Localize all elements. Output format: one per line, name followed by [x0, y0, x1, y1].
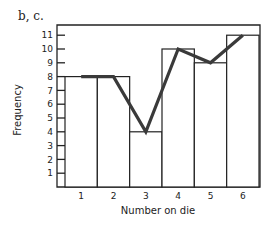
x-tick-label: 6	[240, 191, 246, 201]
x-tick-label: 5	[208, 191, 214, 201]
x-axis-tick-labels: 123456	[78, 191, 246, 201]
y-tick-label: 8	[47, 72, 53, 82]
histogram-bar	[227, 35, 259, 187]
y-tick-label: 2	[47, 155, 53, 165]
histogram-bar	[162, 49, 194, 187]
histogram-bars	[65, 35, 259, 187]
y-tick-label: 9	[47, 58, 53, 68]
x-tick-label: 3	[143, 191, 149, 201]
y-tick-label: 6	[47, 99, 53, 109]
histogram-chart: 1234567891011 123456	[0, 0, 276, 228]
y-tick-label: 3	[47, 141, 53, 151]
y-tick-label: 7	[47, 86, 53, 96]
y-tick-label: 4	[47, 127, 53, 137]
x-tick-label: 2	[111, 191, 117, 201]
y-tick-label: 1	[47, 168, 53, 178]
y-tick-label: 5	[47, 113, 53, 123]
histogram-bar	[65, 77, 97, 187]
x-tick-label: 1	[78, 191, 84, 201]
y-tick-label: 10	[42, 44, 54, 54]
histogram-bar	[194, 63, 226, 187]
x-tick-label: 4	[175, 191, 181, 201]
y-tick-label: 11	[42, 30, 53, 40]
histogram-bar	[130, 132, 162, 187]
y-axis-ticks: 1234567891011	[42, 30, 65, 178]
